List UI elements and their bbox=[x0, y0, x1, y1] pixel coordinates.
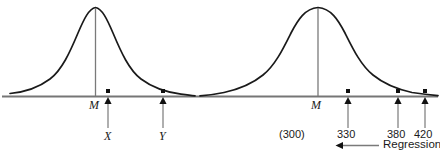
right-mean-label: M bbox=[311, 99, 321, 111]
arrow-up-y bbox=[159, 97, 166, 128]
marker-dot-380 bbox=[396, 89, 400, 93]
right-bell-curve bbox=[200, 8, 438, 96]
arrow-up-380 bbox=[394, 97, 401, 128]
arrow-up-420 bbox=[421, 97, 428, 128]
left-marker-y-label: Y bbox=[159, 130, 166, 142]
marker-dot-330 bbox=[346, 89, 350, 93]
left-marker-x-label: X bbox=[104, 130, 111, 142]
arrow-up-x bbox=[104, 97, 111, 128]
marker-dot-y bbox=[161, 89, 165, 93]
figure-canvas bbox=[0, 0, 440, 154]
regression-caption-label: Regression bbox=[383, 139, 440, 151]
marker-dot-x bbox=[106, 89, 110, 93]
right-marker-330-label: 330 bbox=[337, 129, 355, 140]
regression-figure: M X Y M (300) 330 380 420 Regression bbox=[0, 0, 440, 154]
left-mean-label: M bbox=[89, 99, 99, 111]
regression-arrow bbox=[336, 142, 380, 149]
arrow-up-330 bbox=[344, 97, 351, 128]
right-mean-value-label: (300) bbox=[279, 129, 305, 140]
left-bell-curve bbox=[10, 8, 195, 96]
marker-dot-420 bbox=[423, 89, 427, 93]
